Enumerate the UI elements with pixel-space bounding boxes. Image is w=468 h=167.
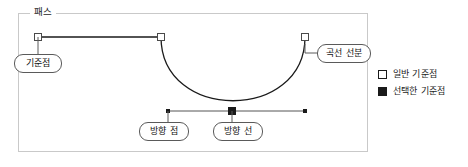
hollow-square-icon [378, 70, 387, 79]
callout-direction-point-label: 방향 점 [150, 127, 178, 136]
mid-anchor-point [158, 34, 165, 41]
leader-curve [305, 44, 317, 53]
illustration-root: 패스 기준점 곡선 선분 방향 점 방향 선 [0, 0, 468, 167]
callout-anchor-point-label: 기준점 [26, 59, 51, 68]
callout-direction-line-label: 방향 선 [224, 127, 252, 136]
right-direction-point-dot [303, 109, 307, 113]
filled-square-icon [378, 87, 387, 96]
legend-item-normal-anchor: 일반 기준점 [378, 66, 464, 83]
legend: 일반 기준점 선택한 기준점 [378, 66, 464, 100]
callout-curve-segment: 곡선 선분 [317, 44, 371, 63]
callout-anchor-point: 기준점 [14, 54, 62, 73]
legend-item-selected-anchor: 선택한 기준점 [378, 83, 464, 100]
callout-direction-point: 방향 점 [139, 122, 189, 141]
curve-segment-path [161, 37, 305, 101]
legend-item-selected-anchor-label: 선택한 기준점 [393, 86, 445, 97]
callout-curve-segment-label: 곡선 선분 [326, 49, 362, 58]
callout-direction-line: 방향 선 [213, 122, 263, 141]
legend-item-normal-anchor-label: 일반 기준점 [393, 69, 437, 80]
right-anchor-point [302, 34, 309, 41]
